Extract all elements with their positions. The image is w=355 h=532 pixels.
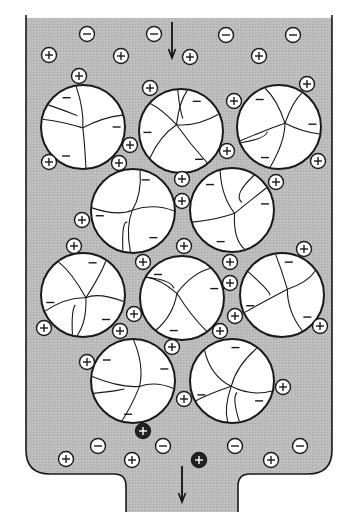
resin-bead xyxy=(91,169,175,253)
cation-icon xyxy=(127,307,142,322)
cation-icon xyxy=(223,276,238,291)
cation-icon xyxy=(80,355,95,370)
dark-cation-icon xyxy=(192,453,207,468)
resin-bead xyxy=(190,168,274,252)
resin-bead xyxy=(190,339,274,423)
anion-icon xyxy=(286,28,301,43)
cation-icon xyxy=(228,309,243,324)
cation-icon xyxy=(123,138,138,153)
cation-icon xyxy=(220,144,235,159)
cation-icon xyxy=(223,255,238,270)
anion-icon xyxy=(219,28,234,43)
cation-icon xyxy=(313,319,328,334)
anion-icon xyxy=(228,439,243,454)
cation-icon xyxy=(177,392,192,407)
cation-icon xyxy=(297,242,312,257)
cation-icon xyxy=(213,324,228,339)
diagram-canvas xyxy=(0,0,355,532)
cation-icon xyxy=(183,50,198,65)
cation-icon xyxy=(67,239,82,254)
anion-icon xyxy=(293,439,308,454)
cation-icon xyxy=(42,155,57,170)
cation-icon xyxy=(311,154,326,169)
resin-bead xyxy=(41,253,125,337)
resin-bead xyxy=(140,256,224,340)
cation-icon xyxy=(59,452,74,467)
ion-exchange-diagram xyxy=(0,0,355,532)
cation-icon xyxy=(72,69,87,84)
cation-icon xyxy=(276,380,291,395)
cation-icon xyxy=(269,175,284,190)
cation-icon xyxy=(37,321,52,336)
resin-bead xyxy=(139,89,223,173)
cation-icon xyxy=(300,77,315,92)
cation-icon xyxy=(113,324,128,339)
resin-bead xyxy=(240,253,324,337)
cation-icon xyxy=(143,81,158,96)
cation-icon xyxy=(112,156,127,171)
cation-icon xyxy=(114,49,129,64)
cation-icon xyxy=(252,49,267,64)
anion-icon xyxy=(80,27,95,42)
cation-icon xyxy=(136,255,151,270)
resin-bead xyxy=(91,339,175,423)
cation-icon xyxy=(175,194,190,209)
cation-icon xyxy=(227,94,242,109)
anion-icon xyxy=(147,27,162,42)
cation-icon xyxy=(42,48,57,63)
resin-bead xyxy=(237,85,321,169)
cation-icon xyxy=(175,172,190,187)
cation-icon xyxy=(177,239,192,254)
cation-icon xyxy=(125,453,140,468)
dark-cation-icon xyxy=(136,424,151,439)
anion-icon xyxy=(156,439,171,454)
cation-icon xyxy=(75,213,90,228)
anion-icon xyxy=(91,439,106,454)
cation-icon xyxy=(165,340,180,355)
cation-icon xyxy=(264,453,279,468)
